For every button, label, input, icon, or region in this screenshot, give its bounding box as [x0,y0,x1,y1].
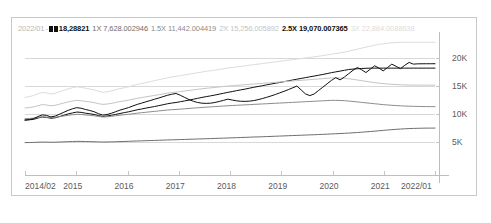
legend-key-15x: 1.5X [148,24,166,33]
y-axis-label-5K: 5K [452,138,462,147]
y-axis-labels: 5K10K15K20K [452,36,486,178]
x-axis-label-2020: 2020 [320,181,339,191]
legend-marker-base [49,26,53,32]
x-axis-label-2022/01: 2022/01 [401,181,432,191]
x-axis: 2014/0220152016201720182019202020212022/… [25,175,475,195]
legend-value-base: 18,28821 [59,24,89,33]
legend-value-15x: 11,442.004419 [168,24,216,33]
x-axis-label-2014/02: 2014/02 [25,181,56,191]
legend-date: 2022/01 [18,24,44,33]
x-axis-line [25,175,449,176]
legend-key-3x: 3X [348,24,360,33]
x-axis-label-2016: 2016 [115,181,134,191]
chart-screenshot: 2022/01-18,288211X 7,628.0029461.5X 11,4… [0,0,491,223]
x-axis-label-2018: 2018 [217,181,236,191]
x-tick-2016 [128,171,129,175]
legend-key-2x: 2X [216,24,228,33]
x-tick-2021 [384,171,385,175]
y-axis-label-10K: 10K [452,110,467,119]
plot-area [25,36,435,171]
plot-svg [25,36,435,171]
x-axis-label-2021: 2021 [371,181,390,191]
x-tick-2019 [281,171,282,175]
x-tick-2014/02 [25,171,26,175]
legend-key-1x: 1X [89,24,101,33]
series-line-x1 [25,128,435,143]
chart-frame: 2022/01-18,288211X 7,628.0029461.5X 11,4… [11,17,477,196]
y-axis-label-15K: 15K [452,82,467,91]
series-line-base [25,68,435,120]
series-line-x3 [25,42,435,97]
x-tick-2018 [230,171,231,175]
legend-key-25x: 2.5X [279,24,297,33]
legend-value-3x: 22,884.0088638 [362,24,415,33]
series-line-x25 [25,62,435,120]
chart-legend: 2022/01-18,288211X 7,628.0029461.5X 11,4… [18,23,472,34]
legend-value-1x: 7,628.002946 [103,24,148,33]
legend-marker-base-2 [54,26,58,32]
x-tick-2017 [179,171,180,175]
x-axis-label-2019: 2019 [268,181,287,191]
legend-value-2x: 15,256.005892 [230,24,279,33]
x-axis-label-2017: 2017 [166,181,185,191]
x-tick-2015 [76,171,77,175]
x-tick-2022/01 [435,171,436,175]
legend-value-25x: 19,070.007365 [299,24,348,33]
x-tick-2020 [333,171,334,175]
y-axis-label-20K: 20K [452,54,467,63]
x-axis-label-2015: 2015 [63,181,82,191]
